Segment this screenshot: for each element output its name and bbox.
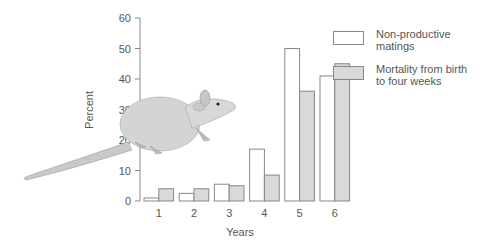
legend-label: Non-productive matings (376, 28, 451, 52)
y-tick-label: 0 (125, 195, 131, 207)
legend-label-line: Non-productive (376, 28, 451, 40)
x-tick-label: 3 (226, 207, 232, 219)
x-axis-labels: 123456 (156, 207, 338, 219)
bar (179, 193, 194, 201)
x-tick-label: 5 (297, 207, 303, 219)
bar (144, 198, 159, 201)
legend-swatch-white (333, 31, 364, 45)
legend-label-line: Mortality from birth (376, 63, 467, 75)
bar (300, 91, 315, 201)
bar (159, 189, 174, 201)
legend-label-line: to four weeks (376, 75, 467, 87)
legend-label-line: matings (376, 40, 451, 52)
x-tick-label: 6 (332, 207, 338, 219)
legend-item-non-productive: Non-productive matings (333, 28, 483, 52)
bar (214, 184, 229, 201)
x-tick-label: 2 (191, 207, 197, 219)
legend: Non-productive matings Mortality from bi… (333, 28, 483, 98)
y-axis-title: Percent (83, 91, 95, 129)
legend-swatch-gray (333, 66, 364, 80)
bar (264, 175, 279, 201)
x-tick-label: 4 (261, 207, 267, 219)
bar (229, 186, 244, 201)
legend-label: Mortality from birth to four weeks (376, 63, 467, 87)
bar (194, 189, 209, 201)
x-tick-label: 1 (156, 207, 162, 219)
y-tick-label: 60 (119, 12, 131, 24)
bar (285, 49, 300, 202)
y-tick-label: 10 (119, 165, 131, 177)
bar (250, 149, 265, 201)
y-tick-label: 50 (119, 43, 131, 55)
legend-item-mortality: Mortality from birth to four weeks (333, 63, 483, 87)
y-tick-label: 40 (119, 73, 131, 85)
x-axis-title: Years (226, 226, 254, 238)
